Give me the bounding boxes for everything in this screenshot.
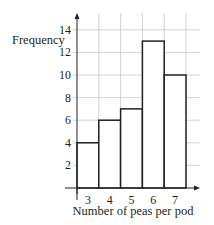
y-tick-label: 8	[65, 91, 71, 105]
bars	[77, 41, 186, 188]
y-axis-arrow-icon	[75, 13, 80, 19]
bar-7	[164, 75, 186, 188]
bar-6	[142, 41, 164, 188]
y-tick-label: 2	[65, 158, 71, 172]
histogram-chart: 2468101214 34567 Frequency Number of pea…	[0, 0, 214, 225]
y-tick-label: 6	[65, 113, 71, 127]
x-axis-arrow-icon	[194, 186, 200, 191]
bar-3	[77, 143, 99, 188]
y-tick-label: 10	[59, 68, 71, 82]
bar-5	[121, 109, 143, 188]
y-tick-label: 12	[59, 45, 71, 59]
y-tick-label: 4	[65, 136, 71, 150]
bar-4	[99, 120, 121, 188]
y-axis-label: Frequency	[12, 33, 66, 47]
x-axis-label: Number of peas per pod	[73, 204, 195, 218]
